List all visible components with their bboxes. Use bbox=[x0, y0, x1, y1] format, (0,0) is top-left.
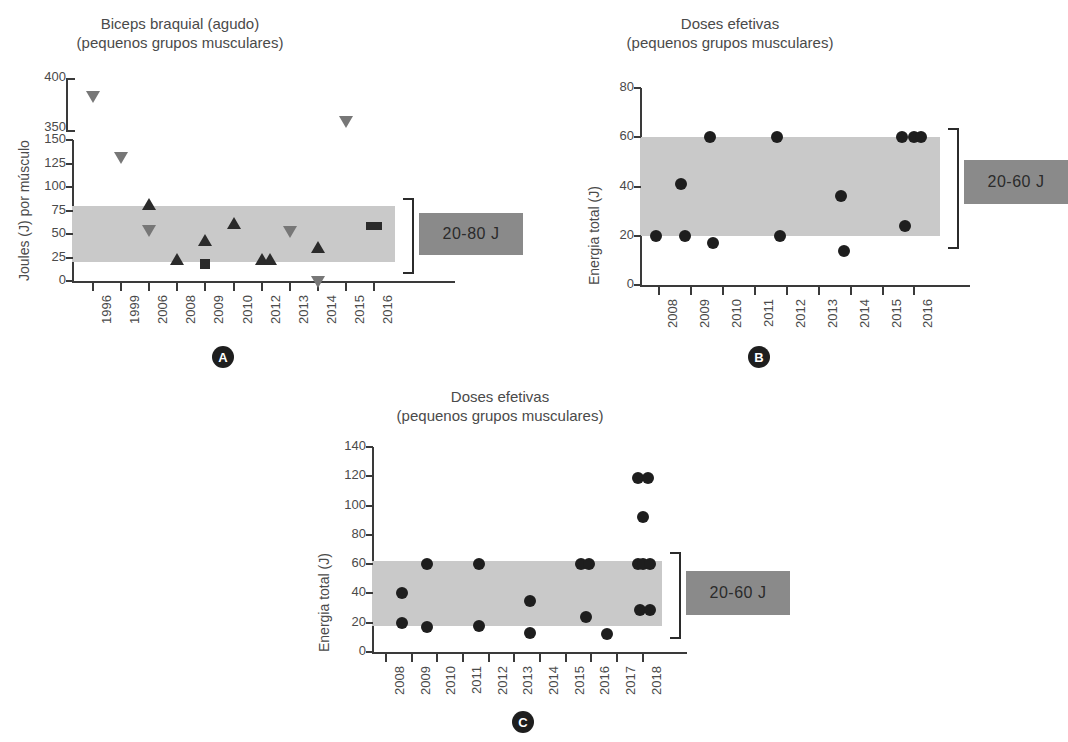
y-tick-mark bbox=[66, 139, 73, 141]
x-axis-line bbox=[372, 652, 687, 654]
data-point-square bbox=[366, 222, 382, 230]
x-tick-label: 2010 bbox=[729, 299, 744, 345]
x-tick-mark bbox=[345, 283, 347, 291]
y-tick-label: 120 bbox=[322, 467, 366, 482]
x-tick-mark bbox=[261, 283, 263, 291]
y-tick-label: 100 bbox=[322, 497, 366, 512]
data-point-triangle-up bbox=[263, 253, 277, 265]
panel-b: Doses efetivas (pequenos grupos muscular… bbox=[520, 0, 1052, 375]
panel-c-label: C bbox=[512, 711, 534, 733]
y-tick-label: 80 bbox=[596, 79, 634, 94]
y-tick-mark bbox=[366, 651, 373, 653]
data-point-triangle-up bbox=[227, 217, 241, 229]
y-axis-break-bracket bbox=[66, 78, 75, 132]
y-tick-mark bbox=[634, 235, 641, 237]
y-tick-mark bbox=[66, 233, 73, 235]
panel-a-label: A bbox=[212, 346, 234, 368]
range-bracket bbox=[948, 128, 959, 249]
data-point bbox=[421, 621, 433, 633]
x-tick-label: 2018 bbox=[649, 666, 664, 712]
data-point-triangle-up bbox=[311, 241, 325, 253]
x-tick-mark bbox=[204, 283, 206, 291]
data-point bbox=[650, 230, 662, 242]
x-tick-label: 2011 bbox=[469, 666, 484, 712]
data-point bbox=[396, 587, 408, 599]
x-tick-label: 2014 bbox=[857, 299, 872, 345]
x-tick-mark bbox=[373, 283, 375, 291]
x-tick-label: 2012 bbox=[268, 295, 283, 341]
range-bracket bbox=[670, 552, 681, 638]
x-tick-label: 2013 bbox=[296, 295, 311, 341]
data-point-triangle-down bbox=[283, 226, 297, 238]
y-tick-label: 60 bbox=[596, 128, 634, 143]
x-tick-mark bbox=[642, 654, 644, 662]
data-point-triangle-down bbox=[114, 152, 128, 164]
range-bracket bbox=[403, 198, 414, 274]
x-tick-label: 2015 bbox=[572, 666, 587, 712]
panel-b-plot: 020406080Energia total (J)20082009201020… bbox=[520, 0, 1052, 375]
panel-c: Doses efetivas (pequenos grupos muscular… bbox=[250, 375, 810, 742]
y-tick-mark bbox=[366, 505, 373, 507]
reference-band bbox=[372, 561, 662, 625]
data-point bbox=[838, 245, 850, 257]
x-axis-line bbox=[72, 281, 455, 283]
y-tick-label: 350 bbox=[24, 119, 66, 134]
x-tick-label: 2012 bbox=[495, 666, 510, 712]
data-point bbox=[707, 237, 719, 249]
y-tick-mark bbox=[66, 186, 73, 188]
data-point-triangle-up bbox=[170, 253, 184, 265]
range-legend-box: 20-80 J bbox=[419, 213, 523, 255]
data-point-triangle-down bbox=[311, 276, 325, 288]
x-tick-mark bbox=[488, 654, 490, 662]
x-tick-mark bbox=[148, 283, 150, 291]
x-tick-mark bbox=[658, 287, 660, 295]
y-tick-mark bbox=[634, 87, 641, 89]
data-point bbox=[524, 595, 536, 607]
x-tick-mark bbox=[411, 654, 413, 662]
y-axis-label: Energia total (J) bbox=[316, 553, 332, 652]
y-tick-mark bbox=[366, 592, 373, 594]
data-point bbox=[601, 628, 613, 640]
x-tick-label: 2016 bbox=[920, 299, 935, 345]
x-tick-mark bbox=[92, 283, 94, 291]
y-tick-mark bbox=[366, 446, 373, 448]
x-tick-label: 1996 bbox=[99, 295, 114, 341]
x-tick-label: 2013 bbox=[520, 666, 535, 712]
x-tick-mark bbox=[590, 654, 592, 662]
x-tick-mark bbox=[289, 283, 291, 291]
data-point bbox=[899, 220, 911, 232]
panel-a-plot: 0255075100125150350400Joules (J) por mús… bbox=[0, 0, 520, 375]
panel-b-label: B bbox=[748, 346, 770, 368]
x-tick-label: 2011 bbox=[761, 299, 776, 345]
x-tick-label: 2016 bbox=[380, 295, 395, 341]
data-point bbox=[473, 620, 485, 632]
x-tick-mark bbox=[462, 654, 464, 662]
y-tick-mark bbox=[634, 284, 641, 286]
x-tick-label: 2014 bbox=[324, 295, 339, 341]
y-tick-mark bbox=[66, 210, 73, 212]
x-tick-mark bbox=[616, 654, 618, 662]
data-point-triangle-down bbox=[339, 116, 353, 128]
x-tick-mark bbox=[513, 654, 515, 662]
y-axis-label: Joules (J) por músculo bbox=[16, 140, 32, 281]
x-tick-label: 2014 bbox=[546, 666, 561, 712]
y-tick-mark bbox=[66, 163, 73, 165]
reference-band bbox=[72, 206, 395, 262]
x-tick-label: 2012 bbox=[793, 299, 808, 345]
data-point bbox=[637, 511, 649, 523]
y-tick-mark bbox=[366, 534, 373, 536]
x-tick-mark bbox=[818, 287, 820, 295]
data-point bbox=[915, 131, 927, 143]
x-tick-mark bbox=[385, 654, 387, 662]
panel-c-plot: 020406080100120140Energia total (J)20082… bbox=[250, 375, 810, 742]
x-tick-label: 1999 bbox=[127, 295, 142, 341]
y-tick-mark bbox=[366, 622, 373, 624]
data-point bbox=[679, 230, 691, 242]
data-point bbox=[774, 230, 786, 242]
x-tick-label: 2015 bbox=[889, 299, 904, 345]
x-tick-mark bbox=[913, 287, 915, 295]
data-point-triangle-up bbox=[198, 234, 212, 246]
x-tick-label: 2010 bbox=[443, 666, 458, 712]
x-tick-label: 2009 bbox=[418, 666, 433, 712]
data-point-triangle-down bbox=[142, 225, 156, 237]
